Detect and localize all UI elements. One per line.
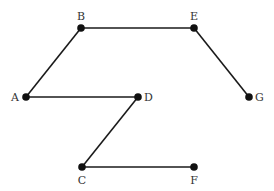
node-label-c: C	[78, 174, 86, 187]
node-label-e: E	[190, 10, 198, 23]
node-b	[77, 24, 85, 32]
edge-d-c	[82, 97, 138, 167]
node-f	[190, 163, 198, 171]
edge-e-g	[194, 28, 249, 97]
edge-a-b	[26, 28, 81, 97]
node-label-a: A	[10, 91, 20, 104]
node-g	[245, 93, 253, 101]
node-label-b: B	[77, 10, 85, 23]
node-d	[134, 93, 142, 101]
node-label-g: G	[255, 91, 264, 104]
node-label-f: F	[190, 174, 198, 187]
node-label-d: D	[144, 91, 153, 104]
node-c	[78, 163, 86, 171]
node-e	[190, 24, 198, 32]
node-a	[22, 93, 30, 101]
graph-diagram: ABEGDCF	[0, 0, 274, 191]
